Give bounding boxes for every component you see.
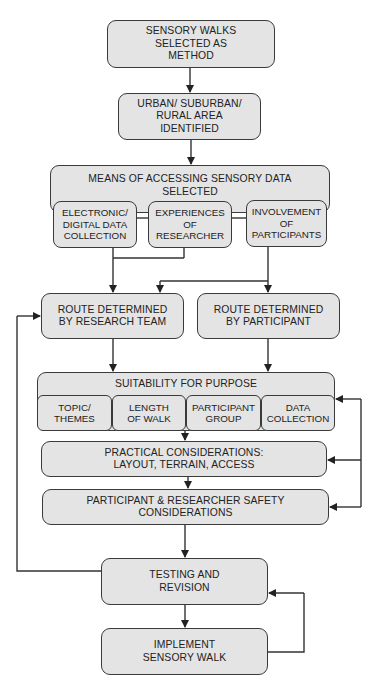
node-sensory-walks-selected: SENSORY WALKS SELECTED AS METHOD bbox=[107, 20, 275, 68]
node-involvement-of-participants: INVOLVEMENT OF PARTICIPANTS bbox=[246, 200, 327, 247]
node-testing-and-revision: TESTING AND REVISION bbox=[101, 558, 268, 605]
node-participant-group: PARTICIPANT GROUP bbox=[186, 395, 261, 431]
node-suitability-for-purpose: SUITABILITY FOR PURPOSE TOPIC/ THEMES LE… bbox=[37, 372, 335, 431]
node-means-of-accessing-data: MEANS OF ACCESSING SENSORY DATA SELECTED… bbox=[50, 165, 330, 251]
node-route-research-team: ROUTE DETERMINED BY RESEARCH TEAM bbox=[41, 293, 184, 339]
node-implement-sensory-walk: IMPLEMENT SENSORY WALK bbox=[101, 628, 268, 675]
node-topic-themes: TOPIC/ THEMES bbox=[37, 395, 112, 431]
node-length-of-walk: LENGTH OF WALK bbox=[112, 395, 186, 431]
node-electronic-digital-collection: ELECTRONIC/ DIGITAL DATA COLLECTION bbox=[53, 201, 137, 248]
node-area-identified: URBAN/ SUBURBAN/ RURAL AREA IDENTIFIED bbox=[118, 93, 261, 140]
node-practical-considerations: PRACTICAL CONSIDERATIONS: LAYOUT, TERRAI… bbox=[41, 441, 327, 477]
node-data-collection: DATA COLLECTION bbox=[261, 395, 335, 431]
node-safety-considerations: PARTICIPANT & RESEARCHER SAFETY CONSIDER… bbox=[42, 489, 329, 525]
node-experiences-of-researcher: EXPERIENCES OF RESEARCHER bbox=[148, 201, 232, 248]
node-route-participant: ROUTE DETERMINED BY PARTICIPANT bbox=[197, 293, 340, 339]
